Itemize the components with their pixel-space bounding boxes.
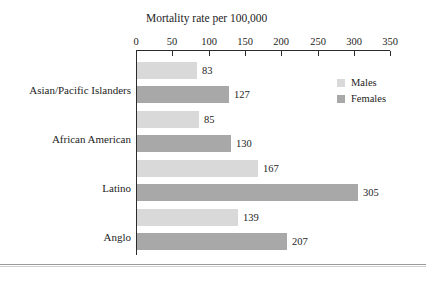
bottom-divider bbox=[0, 264, 426, 265]
bar-value-african-american-males: 85 bbox=[204, 114, 215, 126]
x-axis-tick-200 bbox=[281, 51, 282, 56]
bar-anglo-females bbox=[137, 233, 287, 250]
x-axis-label-150: 150 bbox=[225, 36, 265, 48]
bar-value-latino-females: 305 bbox=[363, 187, 379, 199]
bar-value-anglo-males: 139 bbox=[243, 212, 259, 224]
bar-value-african-american-females: 130 bbox=[236, 138, 252, 150]
bar-value-latino-males: 167 bbox=[263, 163, 279, 175]
x-axis-label-250: 250 bbox=[298, 36, 338, 48]
chart-title: Mortality rate per 100,000 bbox=[146, 11, 346, 25]
bar-african-american-males bbox=[137, 111, 199, 128]
x-axis-tick-150 bbox=[245, 51, 246, 56]
x-axis-tick-300 bbox=[354, 51, 355, 56]
x-axis-label-300: 300 bbox=[334, 36, 374, 48]
category-label-asian-pacific-islanders: Asian/Pacific Islanders bbox=[0, 84, 131, 97]
legend-label-females: Females bbox=[351, 93, 386, 105]
bar-african-american-females bbox=[137, 135, 231, 152]
bar-value-asian-pacific-islanders-females: 127 bbox=[234, 89, 250, 101]
category-label-latino: Latino bbox=[0, 182, 131, 195]
x-axis-label-350: 350 bbox=[370, 36, 410, 48]
x-axis-tick-0 bbox=[136, 51, 137, 56]
x-axis-tick-50 bbox=[172, 51, 173, 56]
x-axis-tick-250 bbox=[318, 51, 319, 56]
legend-swatch-males-icon bbox=[337, 79, 345, 87]
bar-asian-pacific-islanders-females bbox=[137, 86, 229, 103]
mortality-bar-chart: Mortality rate per 100,000 0 50 100 150 … bbox=[0, 0, 426, 281]
legend-item-females: Females bbox=[337, 92, 386, 106]
legend-label-males: Males bbox=[351, 77, 377, 89]
category-label-african-american: African American bbox=[0, 133, 131, 146]
x-axis-line bbox=[136, 50, 390, 51]
x-axis-label-0: 0 bbox=[116, 36, 156, 48]
bar-latino-males bbox=[137, 160, 258, 177]
bar-asian-pacific-islanders-males bbox=[137, 62, 197, 79]
legend-item-males: Males bbox=[337, 76, 386, 90]
bar-value-asian-pacific-islanders-males: 83 bbox=[202, 65, 213, 77]
bar-anglo-males bbox=[137, 209, 238, 226]
category-label-anglo: Anglo bbox=[0, 231, 131, 244]
x-axis-label-100: 100 bbox=[189, 36, 229, 48]
bar-latino-females bbox=[137, 184, 358, 201]
legend-swatch-females-icon bbox=[337, 95, 345, 103]
bar-value-anglo-females: 207 bbox=[292, 236, 308, 248]
x-axis-tick-350 bbox=[390, 51, 391, 56]
x-axis-tick-100 bbox=[209, 51, 210, 56]
bottom-divider-shadow bbox=[0, 266, 426, 267]
x-axis-label-50: 50 bbox=[152, 36, 192, 48]
chart-legend: Males Females bbox=[337, 76, 386, 108]
x-axis-label-200: 200 bbox=[261, 36, 301, 48]
